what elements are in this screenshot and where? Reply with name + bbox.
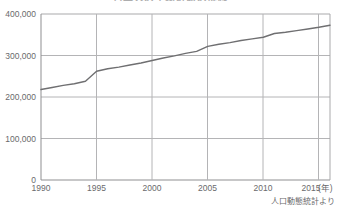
xaxis-unit-label: (年) [318, 184, 341, 193]
xtick-label-2005: 2005 [193, 184, 223, 193]
ytick-label-200000: 200,000 [0, 93, 36, 102]
data-series-line [41, 25, 330, 89]
ytick-label-300000: 300,000 [0, 52, 36, 61]
source-note: 人口動態統計より [271, 197, 335, 206]
ytick-label-400000: 400,000 [0, 10, 36, 19]
chart-figure: 日本人の平均寿命の推移 400,000 300,000 200,000 100,… [0, 0, 341, 212]
plot-area [0, 0, 341, 212]
xtick-label-2000: 2000 [137, 184, 167, 193]
xtick-label-1990: 1990 [26, 184, 56, 193]
ytick-label-100000: 100,000 [0, 135, 36, 144]
xtick-label-2010: 2010 [248, 184, 278, 193]
xtick-label-1995: 1995 [82, 184, 112, 193]
gridlines [41, 14, 330, 180]
